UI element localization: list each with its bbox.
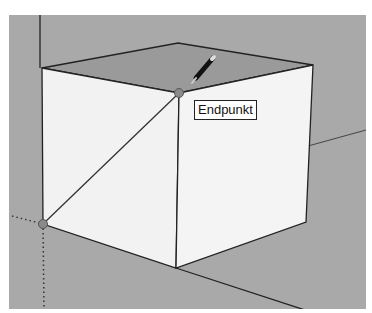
left-face[interactable] <box>42 68 179 268</box>
green-axis-line <box>176 268 305 309</box>
red-axis-line <box>308 130 366 146</box>
dotted-axis-down <box>43 224 44 309</box>
endpoint-marker-bottom <box>39 220 48 229</box>
scene-canvas[interactable] <box>9 15 366 309</box>
inference-tooltip: Endpunkt <box>194 100 257 120</box>
endpoint-marker-top <box>175 89 184 98</box>
right-face[interactable] <box>176 65 313 268</box>
modeling-viewport[interactable]: Endpunkt <box>9 15 366 309</box>
